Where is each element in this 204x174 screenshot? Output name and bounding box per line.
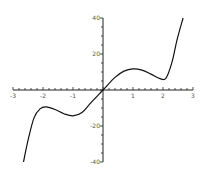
y-tick-label: -20 bbox=[90, 122, 100, 129]
y-tick-label: -40 bbox=[90, 158, 100, 165]
x-tick-label: 1 bbox=[131, 92, 135, 99]
x-tick-label: 3 bbox=[191, 92, 195, 99]
x-tick-label: -3 bbox=[10, 92, 16, 99]
x-tick-label: -1 bbox=[70, 92, 76, 99]
y-tick-label: 40 bbox=[92, 14, 100, 21]
y-tick-label: 20 bbox=[92, 50, 100, 57]
x-tick-label: -2 bbox=[40, 92, 46, 99]
x-tick-label: 2 bbox=[161, 92, 165, 99]
function-plot: -3-2-1123 -40-202040 bbox=[0, 0, 204, 174]
